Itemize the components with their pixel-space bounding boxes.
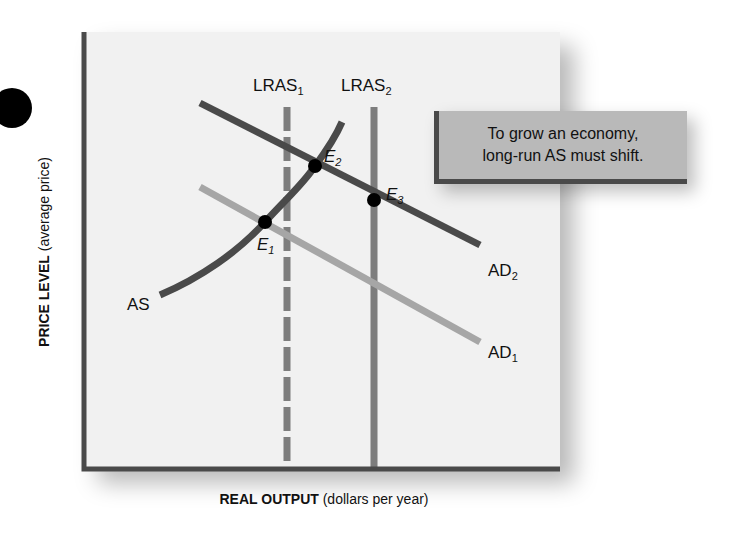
- as-curve: [160, 122, 342, 295]
- ad2-label: AD2: [488, 262, 518, 282]
- lras1-label: LRAS1: [253, 77, 304, 97]
- callout-box: To grow an economy, long-run AS must shi…: [434, 111, 687, 184]
- y-axis-label: PRICE LEVEL (average price): [36, 157, 52, 347]
- ad1-label: AD1: [488, 344, 518, 364]
- e3-label: E3: [386, 186, 403, 206]
- e2-point: [308, 159, 322, 173]
- x-axis-label: REAL OUTPUT (dollars per year): [219, 491, 428, 507]
- e3-point: [367, 193, 381, 207]
- ad1-line: [200, 187, 480, 342]
- e1-point: [258, 215, 272, 229]
- e1-label: E1: [257, 236, 274, 256]
- as-label: AS: [127, 296, 150, 313]
- callout-line-2: long-run AS must shift.: [483, 145, 644, 167]
- e2-label: E2: [324, 148, 341, 168]
- callout-line-1: To grow an economy,: [488, 123, 639, 145]
- axes: [84, 32, 560, 469]
- lras2-label: LRAS2: [341, 77, 392, 97]
